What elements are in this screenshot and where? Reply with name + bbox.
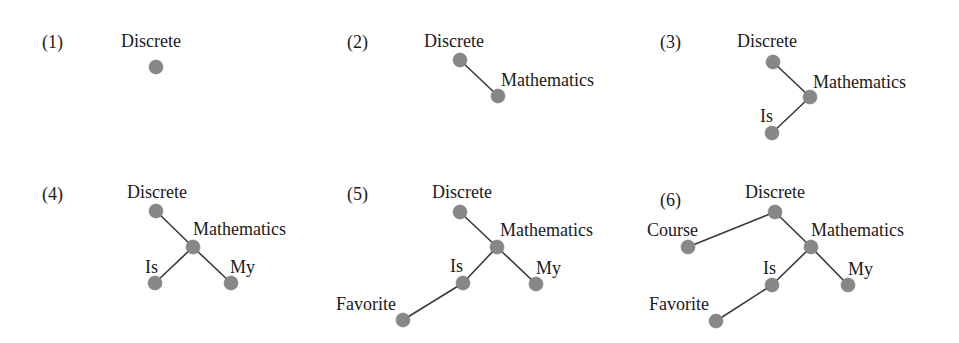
tree-node-discrete <box>453 53 467 67</box>
tree-edge <box>460 60 498 96</box>
node-label: Is <box>145 257 158 277</box>
node-label: My <box>848 259 873 279</box>
node-label: Mathematics <box>501 70 594 90</box>
tree-node-mathematics <box>803 90 817 104</box>
node-label: Course <box>647 220 698 240</box>
panel-number: (6) <box>660 190 681 211</box>
node-label: Is <box>763 258 776 278</box>
node-label: Mathematics <box>813 72 906 92</box>
tree-node-my <box>841 278 855 292</box>
node-label: Discrete <box>737 31 797 51</box>
panel-6: (6)DiscreteMathematicsIsMyCourseFavorite <box>647 182 904 328</box>
node-label: Favorite <box>336 294 396 314</box>
panel-5: (5)DiscreteMathematicsIsMyFavorite <box>336 182 593 327</box>
tree-node-course <box>681 240 695 254</box>
tree-node-is <box>456 276 470 290</box>
node-label: Discrete <box>121 31 181 51</box>
tree-edge <box>772 247 811 285</box>
panel-3: (3)DiscreteMathematicsIs <box>660 31 906 140</box>
tree-node-discrete <box>453 205 467 219</box>
word-tree-figure: (1)Discrete(2)DiscreteMathematics(3)Disc… <box>0 0 959 343</box>
panel-2: (2)DiscreteMathematics <box>347 31 594 103</box>
tree-edge <box>811 247 848 285</box>
node-label: Is <box>760 106 773 126</box>
tree-node-discrete <box>766 55 780 69</box>
node-label: Mathematics <box>500 220 593 240</box>
tree-node-favorite <box>396 313 410 327</box>
node-label: My <box>536 258 561 278</box>
tree-edge <box>403 283 463 320</box>
node-label: Is <box>450 256 463 276</box>
tree-node-mathematics <box>186 240 200 254</box>
node-label: Discrete <box>424 31 484 51</box>
tree-node-is <box>148 276 162 290</box>
tree-edge <box>155 247 193 283</box>
tree-node-is <box>765 278 779 292</box>
tree-edge <box>497 247 536 284</box>
tree-edge <box>156 211 193 247</box>
node-label: Discrete <box>745 182 805 202</box>
tree-node-my <box>224 276 238 290</box>
panel-number: (5) <box>347 184 368 205</box>
tree-node-is <box>765 126 779 140</box>
tree-edge <box>688 212 775 247</box>
panel-4: (4)DiscreteMathematicsIsMy <box>42 182 286 290</box>
tree-node-mathematics <box>491 89 505 103</box>
tree-edge <box>463 247 497 283</box>
panel-number: (1) <box>42 32 63 53</box>
node-label: Mathematics <box>193 219 286 239</box>
tree-node-mathematics <box>490 240 504 254</box>
node-label: Favorite <box>649 294 709 314</box>
tree-node-favorite <box>709 314 723 328</box>
panel-number: (4) <box>42 184 63 205</box>
tree-edge <box>775 212 811 247</box>
tree-edge <box>460 212 497 247</box>
tree-node-discrete <box>149 204 163 218</box>
panel-number: (2) <box>347 32 368 53</box>
tree-edge <box>773 62 810 97</box>
tree-edge <box>716 285 772 321</box>
node-label: Mathematics <box>811 220 904 240</box>
node-label: Discrete <box>432 182 492 202</box>
panel-1: (1)Discrete <box>42 31 181 74</box>
tree-node-mathematics <box>804 240 818 254</box>
tree-edge <box>193 247 231 283</box>
tree-node-discrete <box>768 205 782 219</box>
tree-node-discrete <box>149 60 163 74</box>
tree-edge <box>772 97 810 133</box>
node-label: My <box>230 257 255 277</box>
node-label: Discrete <box>127 182 187 202</box>
tree-node-my <box>529 277 543 291</box>
panel-number: (3) <box>660 32 681 53</box>
